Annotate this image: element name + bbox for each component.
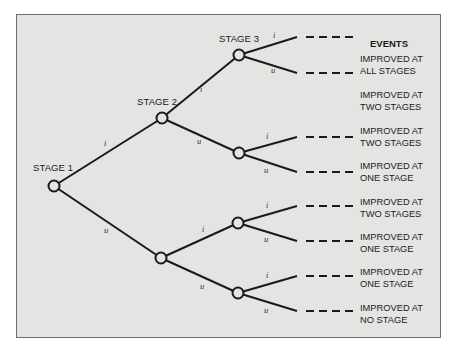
- branch-label-u: u: [200, 281, 204, 291]
- branch-label-i: i: [273, 30, 275, 40]
- node-stage3-b: [234, 148, 245, 159]
- branch-label-u: u: [197, 136, 201, 146]
- node-stage3-a: [234, 50, 245, 61]
- branch-label-i: i: [266, 131, 268, 141]
- branch-label-i: i: [200, 84, 202, 94]
- dashed-connectors: [306, 37, 358, 311]
- events-header: EVENTS: [370, 38, 408, 49]
- stage-1-label: STAGE 1: [33, 162, 73, 173]
- event-3: IMPROVED ATTWO STAGES: [360, 125, 423, 149]
- node-stage3-c: [233, 218, 244, 229]
- event-8: IMPROVED ATNO STAGE: [360, 302, 423, 326]
- branch-label-u: u: [271, 65, 275, 75]
- event-4: IMPROVED ATONE STAGE: [360, 160, 423, 184]
- branch-label-i: i: [266, 270, 268, 280]
- event-5: IMPROVED ATTWO STAGES: [360, 196, 423, 220]
- event-1: IMPROVED ATALL STAGES: [360, 53, 423, 77]
- branch-label-u: u: [104, 225, 108, 235]
- node-stage2-top: [157, 113, 168, 124]
- node-stage2-bottom: [156, 253, 167, 264]
- branch-label-i: i: [266, 200, 268, 210]
- branch-label-i: i: [104, 138, 106, 148]
- event-6: IMPROVED ATONE STAGE: [360, 231, 423, 255]
- branch-label-u: u: [264, 234, 268, 244]
- node-stage3-d: [233, 288, 244, 299]
- branch-label-u: u: [264, 305, 268, 315]
- event-2: IMPROVED ATTWO STAGES: [360, 89, 423, 113]
- stage-2-label: STAGE 2: [137, 96, 177, 107]
- branch-label-u: u: [264, 165, 268, 175]
- event-7: IMPROVED ATONE STAGE: [360, 266, 423, 290]
- branch-label-i: i: [202, 224, 204, 234]
- node-stage1: [49, 181, 60, 192]
- stage-3-label: STAGE 3: [219, 33, 259, 44]
